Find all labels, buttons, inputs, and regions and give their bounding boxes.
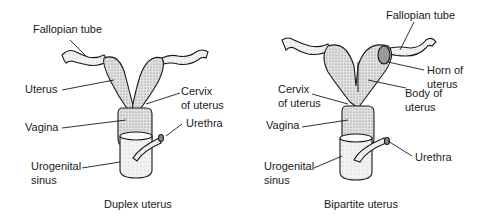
label-cervix-line2: of uterus xyxy=(278,97,321,110)
label-body-line2: uterus xyxy=(405,101,436,114)
label-vagina: Vagina xyxy=(266,119,299,132)
label-urogenital-line2: sinus xyxy=(264,174,290,187)
caption-duplex-uterus: Duplex uterus xyxy=(104,198,172,211)
caption-bipartite-uterus: Bipartite uterus xyxy=(324,198,398,211)
label-body-line1: Body of xyxy=(405,87,442,100)
duplex-uterus-diagram: Fallopian tube Uterus Cervix of uterus V… xyxy=(0,0,242,223)
label-vagina: Vagina xyxy=(25,121,58,134)
label-urogenital-line1: Urogenital xyxy=(264,160,314,173)
label-urethra: Urethra xyxy=(186,117,223,130)
label-horn-line1: Horn of xyxy=(427,64,463,77)
bipartite-uterus-diagram: Fallopian tube Horn of uterus Body of ut… xyxy=(242,0,484,223)
label-cervix-line2: of uterus xyxy=(181,99,224,112)
label-urogenital-line1: Urogenital xyxy=(31,160,81,173)
bipartite-uterus-illustration xyxy=(242,0,484,223)
label-urethra: Urethra xyxy=(415,151,452,164)
label-fallopian-tube: Fallopian tube xyxy=(33,23,102,36)
label-uterus: Uterus xyxy=(25,83,57,96)
label-urogenital-line2: sinus xyxy=(31,174,57,187)
label-cervix-line1: Cervix xyxy=(181,85,212,98)
label-fallopian-tube: Fallopian tube xyxy=(386,9,455,22)
label-cervix-line1: Cervix xyxy=(278,83,309,96)
